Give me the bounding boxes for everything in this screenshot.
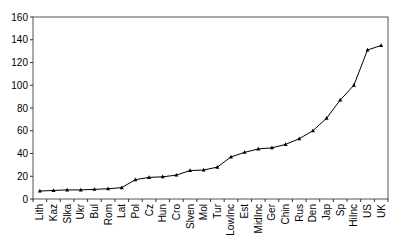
triangle-marker-icon bbox=[352, 83, 356, 87]
x-tick-label: Bul bbox=[89, 204, 100, 218]
x-tick-label: UK bbox=[376, 204, 387, 218]
x-tick-label: Pol bbox=[130, 204, 141, 218]
x-tick-label: Ukr bbox=[75, 203, 86, 219]
x-tick-label: US bbox=[362, 204, 373, 218]
x-tick-label: Chin bbox=[280, 204, 291, 225]
y-tick-label: 160 bbox=[11, 12, 28, 23]
y-tick-label: 20 bbox=[17, 171, 29, 182]
x-tick-label: Slka bbox=[62, 204, 73, 224]
y-tick-label: 80 bbox=[17, 103, 29, 114]
x-tick-label: Kaz bbox=[48, 204, 59, 221]
y-tick-label: 140 bbox=[11, 34, 28, 45]
x-tick-label: Cro bbox=[171, 204, 182, 221]
data-series bbox=[38, 43, 383, 192]
x-tick-label: Den bbox=[307, 204, 318, 222]
x-tick-label: Rom bbox=[103, 204, 114, 225]
x-tick-label: Ger bbox=[266, 203, 277, 220]
x-tick-label: Hun bbox=[157, 204, 168, 222]
x-tick-label: Cz bbox=[144, 204, 155, 216]
y-axis: 020406080100120140160 bbox=[11, 12, 33, 205]
x-tick-label: Rus bbox=[294, 204, 305, 222]
x-tick-label: Slven bbox=[185, 204, 196, 229]
x-tick-label: Est bbox=[239, 204, 250, 219]
x-axis: LithKazSlkaUkrBulRomLatPolCzHunCroSlvenM… bbox=[33, 199, 388, 236]
x-tick-label: HiInc bbox=[348, 204, 359, 227]
triangle-marker-icon bbox=[379, 43, 383, 47]
x-tick-label: MidInc bbox=[253, 204, 264, 233]
x-tick-label: Jap bbox=[321, 204, 332, 221]
x-tick-label: Sp bbox=[335, 204, 346, 217]
x-tick-label: Lith bbox=[34, 204, 45, 220]
y-tick-label: 40 bbox=[17, 148, 29, 159]
x-tick-label: Tur bbox=[212, 203, 223, 218]
y-tick-label: 60 bbox=[17, 125, 29, 136]
line-chart: 020406080100120140160 LithKazSlkaUkrBulR… bbox=[0, 0, 400, 246]
y-tick-label: 0 bbox=[22, 194, 28, 205]
series-line bbox=[40, 45, 381, 191]
x-tick-label: Lat bbox=[116, 204, 127, 218]
y-tick-label: 120 bbox=[11, 57, 28, 68]
x-tick-label: Mol bbox=[198, 204, 209, 220]
y-tick-label: 100 bbox=[11, 80, 28, 91]
x-tick-label: LowInc bbox=[225, 204, 236, 236]
